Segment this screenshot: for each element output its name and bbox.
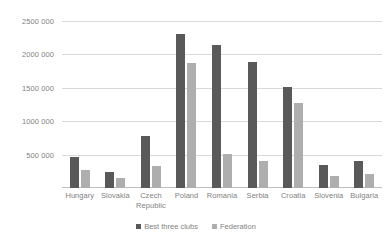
bar-best-three-clubs (354, 161, 363, 188)
bar-best-three-clubs (105, 172, 114, 188)
bar-groups (62, 21, 382, 188)
legend-label: Best three clubs (144, 222, 198, 231)
bar-group (204, 21, 240, 188)
x-axis-labels: Hungary Slovakia Czech Republic Poland R… (62, 191, 382, 210)
bar-group (240, 21, 276, 188)
bar-best-three-clubs (70, 157, 79, 188)
chart-legend: Best three clubs Federation (0, 222, 392, 231)
bar-group (62, 21, 98, 188)
bar-best-three-clubs (212, 45, 221, 188)
legend-item-federation[interactable]: Federation (212, 222, 256, 231)
bar-group (347, 21, 383, 188)
y-tick-label: 1500 000 (22, 83, 54, 92)
x-tick-label-poland: Poland (169, 191, 205, 210)
bar-group (311, 21, 347, 188)
bar-group (98, 21, 134, 188)
bar-best-three-clubs (283, 87, 292, 188)
bar-group (133, 21, 169, 188)
bar-federation (294, 103, 303, 188)
x-tick-label-hungary: Hungary (62, 191, 98, 210)
legend-swatch-icon (136, 224, 141, 229)
bar-federation (81, 170, 90, 188)
x-tick-label-romania: Romania (204, 191, 240, 210)
bar-federation (152, 166, 161, 188)
bar-best-three-clubs (319, 165, 328, 188)
y-tick-label: 1000 000 (22, 117, 54, 126)
x-tick-label-slovenia: Slovenia (311, 191, 347, 210)
bar-federation (187, 63, 196, 188)
x-tick-label-croatia: Croatia (275, 191, 311, 210)
legend-item-best-three-clubs[interactable]: Best three clubs (136, 222, 198, 231)
legend-swatch-icon (212, 224, 217, 229)
bar-federation (330, 176, 339, 188)
bar-federation (259, 161, 268, 188)
bar-best-three-clubs (248, 62, 257, 188)
bar-chart: 2500 000 2000 000 1500 000 1000 000 500 … (0, 0, 392, 242)
x-tick-label-czech-republic: Czech Republic (133, 191, 169, 210)
bar-federation (223, 154, 232, 188)
y-tick-label: 500 000 (26, 150, 54, 159)
x-tick-label-serbia: Serbia (240, 191, 276, 210)
y-tick-label: 2000 000 (22, 50, 54, 59)
bar-federation (365, 174, 374, 188)
y-axis-labels: 2500 000 2000 000 1500 000 1000 000 500 … (0, 0, 62, 242)
legend-label: Federation (220, 222, 256, 231)
bar-best-three-clubs (141, 136, 150, 188)
bar-group (275, 21, 311, 188)
bar-best-three-clubs (176, 34, 185, 188)
x-tick-label-slovakia: Slovakia (98, 191, 134, 210)
bar-group (169, 21, 205, 188)
y-tick-label: 2500 000 (22, 17, 54, 26)
bar-federation (116, 178, 125, 188)
x-tick-label-bulgaria: Bulgaria (347, 191, 383, 210)
